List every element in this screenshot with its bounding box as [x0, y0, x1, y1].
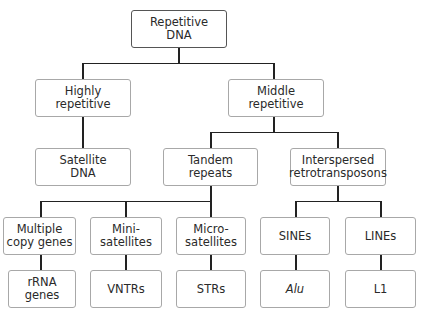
- connector-tandem-down: [210, 185, 212, 201]
- connector-interspersed-bar: [295, 201, 381, 203]
- connector-level2-bar: [210, 132, 338, 134]
- node-label: Multiple copy genes: [7, 223, 73, 249]
- connector-to-middle: [273, 63, 275, 79]
- connector-to-tandem: [210, 132, 212, 148]
- node-vntrs: VNTRs: [90, 270, 162, 308]
- node-label: Repetitive DNA: [150, 16, 208, 42]
- node-label: L1: [374, 283, 388, 296]
- connector-level1-bar: [82, 63, 274, 65]
- connector-to-sines: [295, 201, 297, 217]
- node-label: Micro- satellites: [185, 223, 237, 249]
- node-strs: STRs: [176, 270, 246, 308]
- node-tandem-repeats: Tandem repeats: [163, 148, 258, 186]
- node-lines: LINEs: [345, 217, 416, 255]
- node-label: Mini- satellites: [100, 223, 152, 249]
- node-rrna-genes: rRNA genes: [8, 270, 76, 308]
- node-label: STRs: [197, 283, 225, 296]
- node-label: Interspersed retrotransposons: [289, 154, 387, 180]
- node-satellite-dna: Satellite DNA: [35, 148, 131, 186]
- connector-micro-to-strs: [210, 254, 212, 270]
- node-alu: Alu: [260, 270, 330, 308]
- connector-root-down: [178, 47, 180, 63]
- connector-highly-to-satellite: [82, 117, 84, 148]
- connector-lines-to-l1: [380, 254, 382, 270]
- node-mini-satellites: Mini- satellites: [90, 217, 162, 255]
- node-label: SINEs: [279, 230, 312, 243]
- node-label: Satellite DNA: [59, 154, 106, 180]
- node-multiple-copy-genes: Multiple copy genes: [3, 217, 76, 255]
- node-sines: SINEs: [260, 217, 330, 255]
- connector-to-multiple: [40, 201, 42, 217]
- node-label: Middle repetitive: [248, 85, 303, 111]
- node-l1: L1: [345, 270, 416, 308]
- connector-sines-to-alu: [295, 254, 297, 270]
- connector-to-micro: [210, 201, 212, 217]
- connector-to-interspersed: [337, 132, 339, 148]
- connector-to-lines: [380, 201, 382, 217]
- node-repetitive-dna: Repetitive DNA: [131, 10, 227, 48]
- node-label: Alu: [286, 283, 304, 296]
- node-micro-satellites: Micro- satellites: [176, 217, 246, 255]
- node-interspersed-retrotransposons: Interspersed retrotransposons: [290, 148, 386, 186]
- node-label: rRNA genes: [25, 276, 60, 302]
- repetitive-dna-classification-tree: Repetitive DNA Highly repetitive Middle …: [0, 0, 427, 322]
- node-label: Highly repetitive: [55, 85, 110, 111]
- node-label: LINEs: [365, 230, 397, 243]
- node-middle-repetitive: Middle repetitive: [228, 79, 324, 117]
- connector-interspersed-down: [337, 185, 339, 201]
- node-label: Tandem repeats: [188, 154, 233, 180]
- connector-middle-down: [273, 117, 275, 132]
- connector-to-highly: [82, 63, 84, 79]
- connector-multiple-to-rrna: [40, 254, 42, 270]
- connector-mini-to-vntrs: [125, 254, 127, 270]
- connector-to-mini: [125, 201, 127, 217]
- node-label: VNTRs: [107, 283, 144, 296]
- node-highly-repetitive: Highly repetitive: [35, 79, 131, 117]
